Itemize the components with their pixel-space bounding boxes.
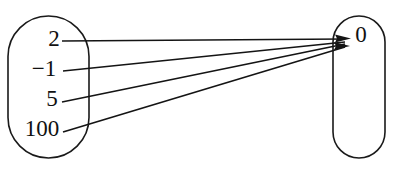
mapping-line-5-to-0 <box>62 44 345 102</box>
domain-element-2: 2 <box>48 26 60 51</box>
domain-element-neg1: −1 <box>32 56 56 81</box>
domain-element-5: 5 <box>46 86 58 111</box>
mapping-line-neg1-to-0 <box>63 42 345 71</box>
mapping-line-100-to-0 <box>63 47 345 132</box>
diagram-canvas: 2 −1 5 100 0 <box>0 0 394 171</box>
mapping-diagram: 2 −1 5 100 0 <box>0 0 394 171</box>
mapping-line-2-to-0 <box>62 39 345 41</box>
codomain-element-0: 0 <box>355 22 367 47</box>
domain-element-100: 100 <box>25 116 60 141</box>
